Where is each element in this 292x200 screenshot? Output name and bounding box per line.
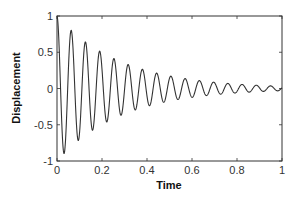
x-tick-label: 0.4 — [139, 164, 154, 176]
y-tick-label: 0 — [47, 83, 53, 95]
y-tick-label: -0.5 — [34, 119, 53, 131]
displacement-curve — [57, 16, 282, 153]
y-axis-label: Displacement — [10, 52, 22, 124]
y-tick-label: -1 — [43, 155, 53, 167]
x-tick-label: 0.2 — [94, 164, 109, 176]
x-tick-label: 1 — [279, 164, 285, 176]
x-tick-label: 0.8 — [229, 164, 244, 176]
axis-ticks — [57, 16, 282, 161]
damped-oscillation-chart: 00.20.40.60.8110.50-0.5-1 Time Displacem… — [0, 0, 292, 200]
y-tick-label: 0.5 — [38, 46, 53, 58]
x-tick-label: 0.6 — [184, 164, 199, 176]
y-tick-label: 1 — [47, 10, 53, 22]
plot-area — [57, 16, 282, 161]
x-tick-label: 0 — [54, 164, 60, 176]
x-axis-label: Time — [156, 179, 181, 191]
